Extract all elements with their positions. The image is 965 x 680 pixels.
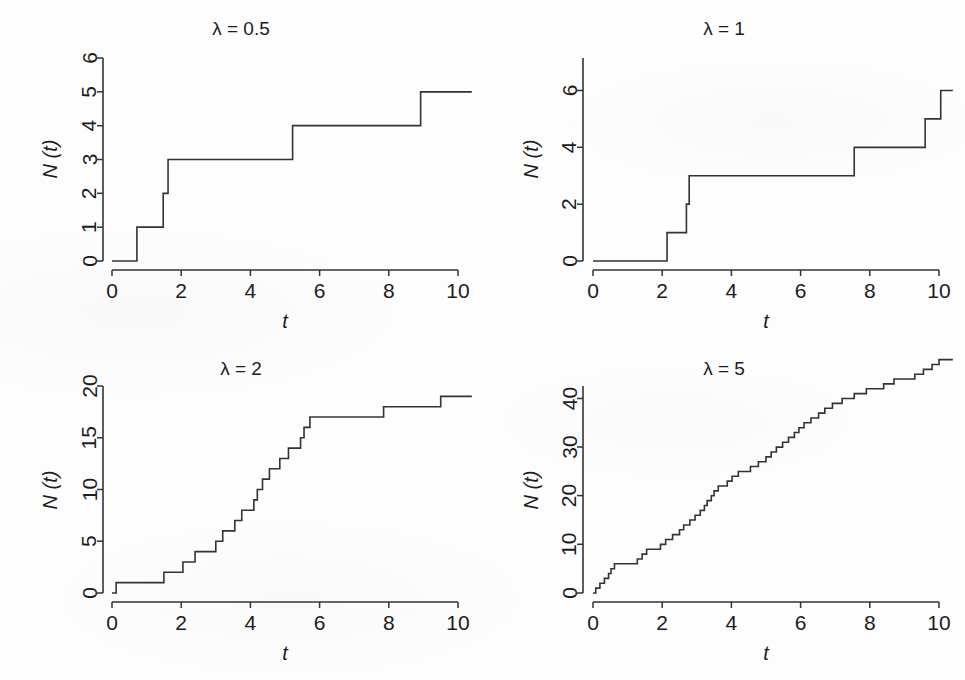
chart-lambda-1: λ = 1 6 4 2 0 N (t) (483, 0, 965, 340)
x-tick-label: 6 (314, 279, 326, 302)
x-tick-label: 6 (795, 611, 807, 634)
x-tick-label: 0 (587, 279, 599, 302)
x-axis-title: t (763, 642, 770, 664)
y-tick-label: 4 (558, 141, 581, 153)
step-series (593, 91, 953, 262)
x-axis: 0 2 4 6 8 10 t (587, 270, 951, 332)
y-tick-label: 10 (78, 478, 101, 501)
y-tick-label: 6 (78, 52, 101, 64)
figure-grid: λ = 0.5 6 5 4 3 2 1 0 N (t) (0, 0, 965, 680)
y-tick-label: 0 (558, 587, 581, 599)
x-tick-label: 2 (175, 611, 187, 634)
x-tick-label: 0 (587, 611, 599, 634)
y-tick-label: 2 (78, 187, 101, 199)
y-tick-label: 2 (558, 198, 581, 210)
x-tick-label: 8 (864, 611, 876, 634)
step-series (593, 360, 953, 593)
x-tick-label: 8 (383, 611, 395, 634)
x-axis-title: t (282, 642, 289, 664)
x-tick-label: 8 (864, 279, 876, 302)
y-tick-label: 15 (78, 426, 101, 449)
y-axis-title: N (t) (520, 471, 542, 510)
x-axis: 0 2 4 6 8 10 t (587, 602, 951, 664)
x-tick-label: 2 (656, 611, 668, 634)
x-axis-title: t (763, 310, 770, 332)
panel-title: λ = 0.5 (212, 18, 270, 39)
chart-lambda-2: λ = 2 20 15 10 5 0 N (t) (0, 340, 483, 680)
y-tick-label: 5 (78, 86, 101, 98)
x-axis-title: t (282, 310, 289, 332)
y-axis: 6 5 4 3 2 1 0 N (t) (39, 52, 103, 267)
x-tick-label: 2 (175, 279, 187, 302)
panel-title: λ = 1 (703, 18, 745, 39)
y-tick-label: 20 (558, 484, 581, 507)
x-axis: 0 2 4 6 8 10 t (106, 602, 470, 664)
panel-title: λ = 2 (220, 358, 262, 379)
step-series (112, 92, 472, 261)
x-tick-label: 0 (106, 279, 118, 302)
x-tick-label: 0 (106, 611, 118, 634)
y-axis-title: N (t) (39, 140, 61, 179)
panel-lambda-1: λ = 1 6 4 2 0 N (t) (483, 0, 965, 340)
panel-lambda-0-5: λ = 0.5 6 5 4 3 2 1 0 N (t) (0, 0, 483, 340)
x-tick-label: 10 (927, 611, 950, 634)
chart-lambda-0-5: λ = 0.5 6 5 4 3 2 1 0 N (t) (0, 0, 483, 340)
x-tick-label: 6 (314, 611, 326, 634)
chart-lambda-5: λ = 5 40 30 20 10 0 N (t) (483, 340, 965, 680)
y-tick-label: 0 (78, 587, 101, 599)
panel-lambda-5: λ = 5 40 30 20 10 0 N (t) (483, 340, 965, 680)
x-tick-label: 10 (446, 611, 469, 634)
x-tick-label: 4 (245, 279, 257, 302)
x-tick-label: 2 (656, 279, 668, 302)
y-tick-label: 0 (558, 255, 581, 267)
panel-title: λ = 5 (703, 358, 745, 379)
y-tick-label: 6 (558, 85, 581, 97)
x-axis: 0 2 4 6 8 10 t (106, 270, 470, 332)
y-tick-label: 20 (78, 374, 101, 397)
y-tick-label: 3 (78, 154, 101, 166)
y-tick-label: 5 (78, 535, 101, 547)
x-tick-label: 6 (795, 279, 807, 302)
y-tick-label: 0 (78, 255, 101, 267)
x-tick-label: 10 (446, 279, 469, 302)
y-axis: 40 30 20 10 0 N (t) (520, 386, 583, 599)
y-axis: 20 15 10 5 0 N (t) (39, 374, 103, 599)
y-tick-label: 10 (558, 533, 581, 556)
step-series (112, 396, 472, 593)
y-tick-label: 30 (558, 435, 581, 458)
x-tick-label: 8 (383, 279, 395, 302)
y-tick-label: 4 (78, 120, 101, 132)
y-axis-title: N (t) (520, 140, 542, 179)
x-tick-label: 10 (927, 279, 950, 302)
x-tick-label: 4 (726, 279, 738, 302)
x-tick-label: 4 (726, 611, 738, 634)
x-tick-label: 4 (245, 611, 257, 634)
y-tick-label: 1 (78, 221, 101, 233)
y-tick-label: 40 (558, 387, 581, 410)
panel-lambda-2: λ = 2 20 15 10 5 0 N (t) (0, 340, 483, 680)
y-axis: 6 4 2 0 N (t) (520, 58, 583, 267)
y-axis-title: N (t) (39, 471, 61, 510)
